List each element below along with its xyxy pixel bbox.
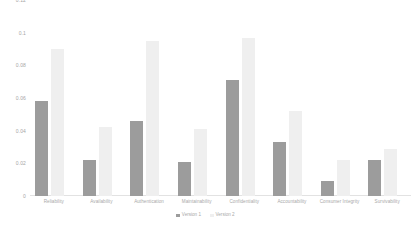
- x-axis-tick-label: Consumer Integrity: [316, 200, 364, 205]
- bar-group: [125, 0, 173, 196]
- y-axis-tick-label: 0.02: [16, 161, 26, 166]
- y-axis-tick-label: 0.08: [16, 63, 26, 68]
- chart-legend: Version 1Version 2: [0, 213, 411, 218]
- x-axis-tick-label: Maintainability: [173, 200, 221, 205]
- bar-version-1[interactable]: [226, 80, 239, 196]
- bar-group: [268, 0, 316, 196]
- bar-version-2[interactable]: [146, 41, 159, 196]
- bar-version-1[interactable]: [273, 142, 286, 196]
- bar-version-2[interactable]: [51, 49, 64, 196]
- y-axis-tick-label: 0.06: [16, 96, 26, 101]
- bar-group: [363, 0, 411, 196]
- bar-version-2[interactable]: [99, 127, 112, 196]
- bar-version-2[interactable]: [194, 129, 207, 196]
- bar-version-2[interactable]: [337, 160, 350, 196]
- x-axis-tick-labels: ReliabilityAvailabilityAuthenticationMai…: [30, 200, 411, 210]
- bar-group: [30, 0, 78, 196]
- x-axis-tick-label: Availability: [78, 200, 126, 205]
- bar-group: [221, 0, 269, 196]
- x-axis-tick-label: Reliability: [30, 200, 78, 205]
- y-axis-tick-label: 0: [23, 194, 26, 199]
- legend-label: Version 1: [182, 213, 201, 218]
- legend-swatch-icon: [210, 214, 214, 218]
- bar-chart: 00.020.040.060.080.10.12 ReliabilityAvai…: [0, 0, 411, 228]
- y-axis-tick-label: 0.04: [16, 128, 26, 133]
- legend-item[interactable]: Version 1: [176, 213, 201, 218]
- plot-area: [30, 0, 411, 196]
- y-axis-tick-label: 0.12: [16, 0, 26, 3]
- bar-version-2[interactable]: [289, 111, 302, 196]
- legend-label: Version 2: [216, 213, 235, 218]
- bar-version-1[interactable]: [83, 160, 96, 196]
- bar-version-1[interactable]: [321, 181, 334, 196]
- x-axis-tick-label: Accountability: [268, 200, 316, 205]
- x-axis-tick-label: Survivability: [363, 200, 411, 205]
- bar-version-1[interactable]: [178, 162, 191, 196]
- bar-version-1[interactable]: [130, 121, 143, 196]
- bar-group: [173, 0, 221, 196]
- bar-group: [316, 0, 364, 196]
- y-axis: 00.020.040.060.080.10.12: [0, 0, 30, 200]
- bar-version-1[interactable]: [35, 101, 48, 196]
- x-axis-tick-label: Authentication: [125, 200, 173, 205]
- legend-swatch-icon: [176, 214, 180, 218]
- bar-group: [78, 0, 126, 196]
- bar-version-2[interactable]: [242, 38, 255, 196]
- x-axis-tick-label: Confidentiality: [221, 200, 269, 205]
- y-axis-tick-label: 0.1: [19, 30, 26, 35]
- bar-version-1[interactable]: [368, 160, 381, 196]
- bar-version-2[interactable]: [384, 149, 397, 196]
- legend-item[interactable]: Version 2: [210, 213, 235, 218]
